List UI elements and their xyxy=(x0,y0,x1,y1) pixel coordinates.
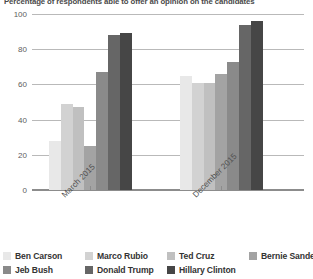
bar[interactable] xyxy=(96,72,108,190)
legend-item-label: Jeb Bush xyxy=(15,265,53,275)
y-axis-tick-labels: 020406080100 xyxy=(0,14,27,190)
y-axis-tick-label: 40 xyxy=(3,115,27,124)
legend-swatch-icon xyxy=(167,252,175,260)
bar[interactable] xyxy=(227,62,239,190)
chart-title: Percentage of respondents able to offer … xyxy=(4,0,310,6)
legend-swatch-icon xyxy=(167,266,175,274)
bar[interactable] xyxy=(192,83,204,190)
legend-item[interactable]: Bernie Sanders xyxy=(249,250,313,261)
bar[interactable] xyxy=(61,104,73,190)
bar[interactable] xyxy=(108,35,120,190)
bar[interactable] xyxy=(180,76,192,190)
x-axis-tick-mark xyxy=(90,186,91,190)
bar[interactable] xyxy=(251,21,263,190)
y-axis-tick-label: 60 xyxy=(3,80,27,89)
legend-item[interactable]: Ben Carson xyxy=(3,250,62,261)
legend-item-label: Ben Carson xyxy=(15,251,62,261)
legend-swatch-icon xyxy=(249,252,257,260)
legend-item-label: Hillary Clinton xyxy=(179,265,236,275)
y-axis-tick-label: 100 xyxy=(3,10,27,19)
legend-item-label: Ted Cruz xyxy=(179,251,214,261)
y-axis-tick-label: 20 xyxy=(3,150,27,159)
legend-item[interactable]: Donald Trump xyxy=(85,264,154,275)
legend-swatch-icon xyxy=(85,266,93,274)
legend-item[interactable]: Jeb Bush xyxy=(3,264,53,275)
plot-area xyxy=(32,14,304,190)
bar[interactable] xyxy=(239,25,251,190)
bar[interactable] xyxy=(120,33,132,190)
legend-swatch-icon xyxy=(3,266,11,274)
bar[interactable] xyxy=(49,141,61,190)
chart-legend: Ben CarsonMarco RubioTed CruzBernie Sand… xyxy=(3,250,313,278)
y-axis-tick-label: 80 xyxy=(3,45,27,54)
legend-item-label: Marco Rubio xyxy=(97,251,148,261)
y-axis-tick-label: 0 xyxy=(3,186,27,195)
legend-item-label: Bernie Sanders xyxy=(261,251,313,261)
legend-item[interactable]: Marco Rubio xyxy=(85,250,148,261)
bar-chart-figure: Percentage of respondents able to offer … xyxy=(0,0,313,279)
legend-item-label: Donald Trump xyxy=(97,265,154,275)
legend-swatch-icon xyxy=(85,252,93,260)
legend-item[interactable]: Hillary Clinton xyxy=(167,264,236,275)
x-axis-tick-mark xyxy=(221,186,222,190)
legend-item[interactable]: Ted Cruz xyxy=(167,250,214,261)
legend-swatch-icon xyxy=(3,252,11,260)
